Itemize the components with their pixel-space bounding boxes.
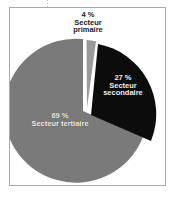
pie-label-secteur-primaire: 4 % Secteur primaire [55,11,121,34]
pie-label-secteur-tertiaire-line1: Secteur tertiaire [14,120,106,128]
pie-chart: 4 % Secteur primaire 27 % Secteur second… [10,8,167,187]
figure-frame: 4 % Secteur primaire 27 % Secteur second… [9,7,166,186]
pie-label-secteur-secondaire: 27 % Secteur secondaire [91,74,155,97]
pie-label-secteur-secondaire-line2: secondaire [91,89,155,97]
pie-label-secteur-primaire-line2: primaire [55,26,121,34]
pie-label-secteur-tertiaire: 69 % Secteur tertiaire [14,112,106,127]
pie-chart-svg [10,8,167,187]
